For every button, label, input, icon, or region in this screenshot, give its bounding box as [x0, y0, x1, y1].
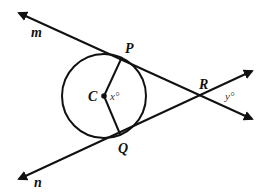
label-point-q: Q	[118, 141, 128, 156]
label-line-m: m	[31, 25, 42, 40]
line-n	[19, 71, 252, 179]
label-angle-x: x°	[109, 90, 120, 102]
line-m	[19, 13, 252, 119]
label-angle-y: y°	[224, 90, 235, 102]
center-point	[101, 93, 107, 99]
label-line-n: n	[34, 175, 42, 190]
label-point-p: P	[125, 41, 134, 56]
label-point-r: R	[198, 77, 208, 92]
geometry-diagram: m n P Q R C x° y°	[0, 0, 264, 192]
label-center-c: C	[88, 89, 98, 104]
